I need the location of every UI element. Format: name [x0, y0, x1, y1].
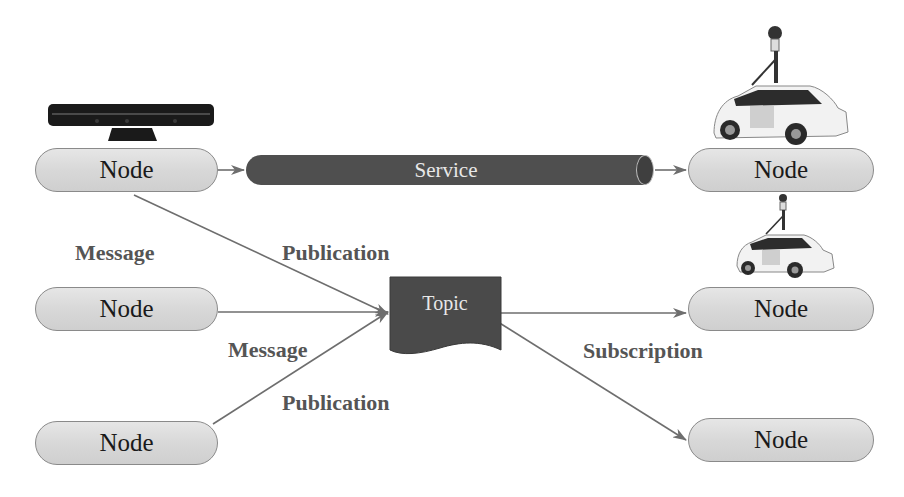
service-label: Service: [415, 158, 478, 183]
street-view-car-icon: [737, 194, 834, 278]
node-right-2: Node: [688, 287, 874, 331]
topic-label: Topic: [390, 292, 500, 315]
node-left-2: Node: [35, 287, 218, 331]
label-message-top: Message: [75, 240, 154, 266]
topic-shape: [390, 277, 501, 354]
node-left-1: Node: [35, 148, 218, 192]
node-label: Node: [754, 426, 808, 454]
node-label: Node: [99, 429, 153, 457]
label-message-middle: Message: [228, 337, 307, 363]
kinect-sensor-icon: [48, 104, 214, 141]
node-label: Node: [754, 295, 808, 323]
node-label: Node: [99, 156, 153, 184]
node-label: Node: [99, 295, 153, 323]
node-label: Node: [754, 156, 808, 184]
node-left-3: Node: [35, 421, 218, 465]
label-publication-bottom: Publication: [282, 390, 390, 416]
label-subscription: Subscription: [583, 338, 703, 364]
street-view-car-icon: [714, 26, 848, 145]
service-pipe: Service: [246, 155, 646, 185]
node-right-1: Node: [688, 148, 874, 192]
service-pipe-end: [636, 155, 654, 185]
node-right-3: Node: [688, 418, 874, 462]
label-publication-top: Publication: [282, 240, 390, 266]
